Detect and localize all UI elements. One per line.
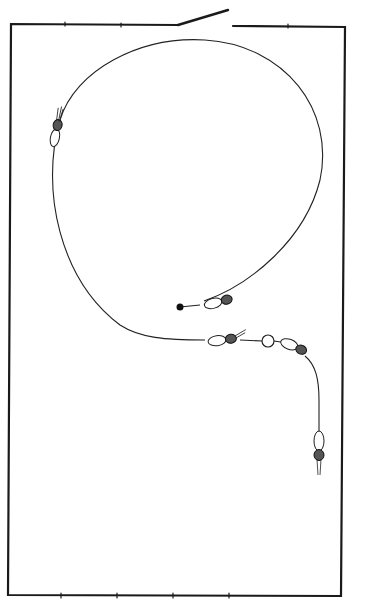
hook-leader xyxy=(314,431,324,475)
knot-connector-right xyxy=(279,337,308,356)
knot-connector-inner xyxy=(203,293,233,310)
ring-icon xyxy=(262,335,274,347)
frame-left-top-wire xyxy=(8,24,345,596)
line-loop xyxy=(53,40,323,432)
knot-connector-middle xyxy=(207,330,247,347)
end-bead-icon xyxy=(177,304,184,311)
loop-curve xyxy=(53,40,323,340)
diagram-canvas xyxy=(0,0,383,600)
frame xyxy=(8,10,345,598)
switch-lever xyxy=(178,10,228,25)
border-ticks xyxy=(61,22,288,598)
drop-line xyxy=(305,356,319,432)
